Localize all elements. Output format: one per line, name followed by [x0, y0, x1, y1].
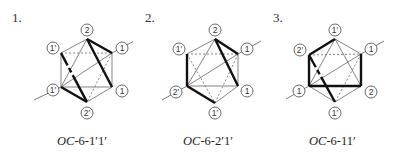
diagram-caption: OC-6-2′1′ [183, 134, 233, 149]
svg-text:1: 1 [369, 44, 374, 54]
svg-text:1′: 1′ [332, 108, 339, 118]
diagram-1: 1. 2 1′ 1 1′ 1 2′ [0, 0, 133, 155]
diagram-caption: OC-6-11′ [309, 134, 356, 149]
svg-text:1: 1 [297, 86, 302, 96]
svg-text:1: 1 [245, 44, 250, 54]
svg-text:2′: 2′ [297, 45, 304, 55]
ligand-labels: 2 1′ 1 2′ 1 1′ [170, 24, 253, 119]
svg-text:2: 2 [213, 25, 218, 35]
diagram-caption: OC-6-1′1′ [57, 134, 107, 149]
octahedron-diagram: 2 1′ 1 2′ 1 1′ [128, 0, 261, 155]
svg-text:2: 2 [85, 25, 90, 35]
diagram-3: 3. 1′ 2′ 1 1 2 1′ OC-6-11′ [264, 0, 397, 155]
svg-text:1′: 1′ [332, 25, 339, 35]
svg-text:1: 1 [245, 86, 250, 96]
ligand-labels: 1′ 2′ 1 1 2 1′ [293, 24, 377, 119]
svg-text:2′: 2′ [173, 87, 180, 97]
diagram-2: 2. 2 1′ 1 2′ 1 1′ OC-6-2′1′ [128, 0, 261, 155]
svg-text:1: 1 [120, 86, 125, 96]
octahedron-diagram: 1′ 2′ 1 1 2 1′ [264, 0, 399, 155]
octahedron-diagram: 2 1′ 1 1′ 1 2′ [0, 0, 133, 155]
svg-text:1′: 1′ [50, 43, 57, 53]
svg-text:2: 2 [369, 87, 374, 97]
svg-text:2′: 2′ [84, 108, 91, 118]
svg-text:1: 1 [120, 43, 125, 53]
svg-text:1′: 1′ [176, 44, 183, 54]
svg-text:1′: 1′ [50, 85, 57, 95]
svg-text:1′: 1′ [212, 108, 219, 118]
